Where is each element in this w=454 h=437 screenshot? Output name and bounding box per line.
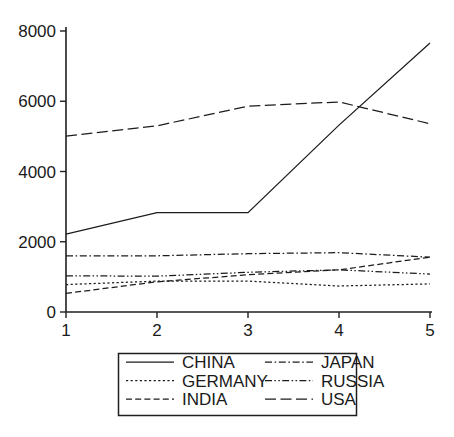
y-tick-label: 0 xyxy=(47,303,56,322)
series-line-china xyxy=(66,43,430,234)
x-tick-label: 1 xyxy=(61,321,70,340)
legend-label: RUSSIA xyxy=(321,372,385,391)
legend-label: GERMANY xyxy=(182,372,268,391)
data-series-group xyxy=(66,43,430,293)
series-line-germany xyxy=(66,281,430,286)
legend-label: JAPAN xyxy=(321,353,375,372)
x-tick-label: 3 xyxy=(243,321,252,340)
legend-label: INDIA xyxy=(182,390,228,409)
series-line-japan xyxy=(66,253,430,258)
x-axis-tick-labels: 12345 xyxy=(61,321,434,340)
series-line-usa xyxy=(66,102,430,136)
x-tick-label: 2 xyxy=(152,321,161,340)
legend-label: CHINA xyxy=(182,353,236,372)
line-chart: 02000400060008000 12345 CHINAJAPANGERMAN… xyxy=(0,0,454,437)
series-line-russia xyxy=(66,270,430,276)
y-tick-label: 6000 xyxy=(18,92,56,111)
chart-canvas: 02000400060008000 12345 CHINAJAPANGERMAN… xyxy=(0,0,454,437)
x-tick-label: 5 xyxy=(425,321,434,340)
y-axis-tick-labels: 02000400060008000 xyxy=(18,22,56,322)
y-tick-label: 2000 xyxy=(18,233,56,252)
chart-legend: CHINAJAPANGERMANYRUSSIAINDIAUSA xyxy=(119,353,385,416)
x-tick-label: 4 xyxy=(334,321,343,340)
series-line-india xyxy=(66,257,430,293)
y-tick-label: 8000 xyxy=(18,22,56,41)
legend-label: USA xyxy=(321,390,357,409)
y-tick-label: 4000 xyxy=(18,163,56,182)
